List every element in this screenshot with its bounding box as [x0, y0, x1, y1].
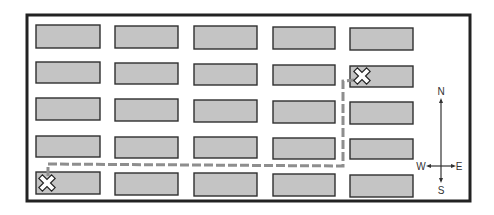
- block-r5-c4: [273, 174, 335, 196]
- block-r1-c5: [350, 28, 413, 50]
- route-path: [48, 80, 354, 176]
- compass-west-label: W: [416, 161, 426, 172]
- compass-south-label: S: [438, 185, 445, 196]
- block-r2-c3: [194, 64, 257, 85]
- block-r3-c3: [194, 100, 257, 122]
- block-r1-c4: [273, 27, 335, 49]
- block-r5-c2: [115, 173, 178, 195]
- block-r4-c5: [350, 139, 413, 159]
- block-r2-c4: [273, 65, 335, 85]
- block-r5-c3: [194, 173, 257, 196]
- arrow-north-icon: [439, 98, 443, 103]
- arrow-west-icon: [426, 164, 431, 168]
- block-r4-c3: [194, 137, 257, 158]
- block-r5-c5: [350, 175, 413, 197]
- arrow-south-icon: [439, 178, 443, 183]
- block-r1-c1: [36, 25, 100, 48]
- city-blocks: [36, 25, 413, 197]
- block-r3-c1: [36, 98, 100, 120]
- street-map: N S W E: [0, 0, 494, 215]
- block-r3-c4: [273, 101, 335, 123]
- block-r3-c5: [350, 102, 413, 124]
- compass-north-label: N: [437, 86, 444, 97]
- block-r3-c2: [115, 99, 178, 121]
- block-r2-c2: [115, 63, 178, 84]
- block-r4-c2: [115, 137, 178, 158]
- block-r4-c1: [36, 136, 100, 157]
- block-r1-c3: [194, 26, 257, 49]
- compass-rose: N S W E: [416, 86, 462, 196]
- compass-east-label: E: [456, 161, 463, 172]
- block-r1-c2: [115, 26, 178, 48]
- block-r2-c1: [36, 62, 100, 83]
- block-r4-c4: [273, 138, 335, 159]
